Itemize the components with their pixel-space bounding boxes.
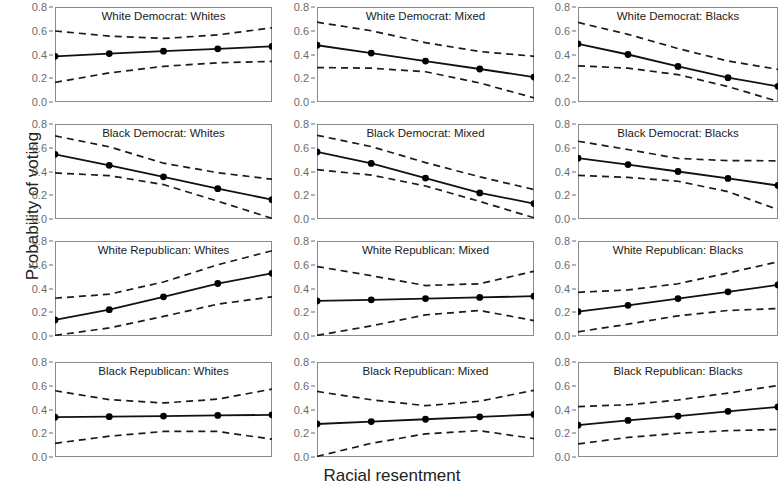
chart-panel: 0.00.20.40.60.8White Republican: Mixed: [317, 241, 534, 336]
y-tick-label: 0.0: [32, 96, 47, 108]
y-tick-mark: [311, 288, 315, 289]
y-tick-mark: [49, 78, 53, 79]
panel-plot: [55, 362, 272, 457]
y-tick-mark: [572, 124, 576, 125]
ci-upper-line: [578, 22, 778, 69]
y-axis: 0.00.20.40.60.8: [23, 241, 53, 336]
y-tick-label: 0.4: [32, 404, 47, 416]
y-tick-mark: [49, 147, 53, 148]
panel-plot: [578, 7, 778, 102]
y-tick-mark: [572, 409, 576, 410]
y-axis: 0.00.20.40.60.8: [546, 241, 576, 336]
y-tick-mark: [572, 7, 576, 8]
data-point-marker: [214, 45, 221, 52]
y-tick-mark: [49, 433, 53, 434]
data-point-marker: [625, 161, 632, 168]
data-point-marker: [106, 162, 113, 169]
y-tick-label: 0.2: [32, 72, 47, 84]
chart-panel: 0.00.20.40.60.8White Democrat: Blacks: [578, 7, 778, 102]
panel-frame: [56, 242, 272, 336]
y-tick-mark: [49, 312, 53, 313]
y-tick-label: 0.2: [294, 306, 309, 318]
data-point-marker: [675, 295, 682, 302]
data-point-marker: [725, 175, 732, 182]
y-tick-mark: [49, 264, 53, 265]
data-point-marker: [317, 421, 320, 428]
data-point-marker: [531, 200, 534, 207]
panel-plot: [55, 241, 272, 336]
y-tick-mark: [49, 195, 53, 196]
data-point-marker: [422, 58, 429, 65]
ci-upper-line: [317, 267, 534, 286]
panel-plot: [317, 124, 534, 219]
y-tick-label: 0.8: [555, 1, 570, 13]
y-tick-label: 0.4: [555, 166, 570, 178]
panel-plot: [578, 241, 778, 336]
data-point-marker: [422, 416, 429, 423]
y-tick-label: 0.0: [555, 213, 570, 225]
y-tick-label: 0.6: [294, 380, 309, 392]
y-tick-label: 0.2: [555, 189, 570, 201]
panel-plot: [317, 7, 534, 102]
ci-lower-line: [55, 431, 272, 443]
y-tick-mark: [572, 362, 576, 363]
y-tick-mark: [572, 264, 576, 265]
chart-panel: 0.00.20.40.60.8Black Republican: Whites: [55, 362, 272, 457]
y-tick-label: 0.4: [294, 166, 309, 178]
data-point-marker: [476, 66, 483, 73]
y-tick-mark: [311, 195, 315, 196]
chart-panel: 0.00.20.40.60.8White Republican: Blacks: [578, 241, 778, 336]
data-point-marker: [775, 182, 778, 189]
data-point-marker: [368, 418, 375, 425]
panel-frame: [318, 8, 534, 102]
panel-frame: [56, 125, 272, 219]
data-point-marker: [578, 155, 581, 162]
data-point-marker: [578, 308, 581, 315]
y-tick-label: 0.6: [294, 142, 309, 154]
data-point-marker: [675, 413, 682, 420]
y-tick-label: 0.8: [555, 235, 570, 247]
chart-panel: 0.00.20.40.60.8Black Democrat: Mixed: [317, 124, 534, 219]
data-point-marker: [368, 50, 375, 57]
y-tick-mark: [311, 78, 315, 79]
y-tick-mark: [49, 362, 53, 363]
y-tick-mark: [311, 264, 315, 265]
y-tick-mark: [572, 171, 576, 172]
data-point-marker: [214, 280, 221, 287]
y-tick-label: 0.0: [32, 330, 47, 342]
y-tick-mark: [572, 312, 576, 313]
data-point-marker: [625, 417, 632, 424]
y-tick-label: 0.8: [294, 1, 309, 13]
panel-plot: [55, 7, 272, 102]
y-tick-mark: [572, 78, 576, 79]
ci-lower-line: [578, 66, 778, 102]
y-tick-mark: [572, 241, 576, 242]
y-tick-mark: [49, 102, 53, 103]
y-axis: 0.00.20.40.60.8: [285, 241, 315, 336]
ci-upper-line: [55, 28, 272, 39]
ci-lower-line: [317, 431, 534, 457]
data-point-marker: [531, 411, 534, 418]
y-axis: 0.00.20.40.60.8: [546, 7, 576, 102]
data-point-marker: [725, 408, 732, 415]
data-point-marker: [317, 42, 320, 49]
y-axis: 0.00.20.40.60.8: [23, 7, 53, 102]
y-tick-label: 0.0: [555, 96, 570, 108]
data-point-marker: [531, 293, 534, 300]
y-tick-label: 0.6: [555, 25, 570, 37]
ci-lower-line: [55, 297, 272, 336]
y-tick-label: 0.6: [555, 142, 570, 154]
y-tick-label: 0.2: [32, 189, 47, 201]
y-axis: 0.00.20.40.60.8: [285, 362, 315, 457]
y-tick-label: 0.6: [294, 25, 309, 37]
y-tick-mark: [49, 54, 53, 55]
chart-panel: 0.00.20.40.60.8Black Republican: Blacks: [578, 362, 778, 457]
y-tick-mark: [49, 241, 53, 242]
data-point-marker: [160, 293, 167, 300]
data-point-marker: [55, 317, 58, 324]
y-tick-label: 0.4: [555, 404, 570, 416]
y-tick-mark: [49, 336, 53, 337]
y-tick-label: 0.2: [555, 306, 570, 318]
data-point-marker: [317, 298, 320, 305]
data-point-marker: [775, 83, 778, 90]
